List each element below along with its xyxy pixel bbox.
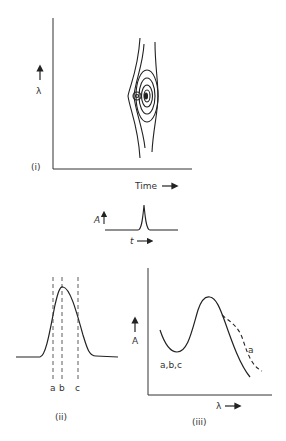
inset-peak-curve — [105, 205, 178, 230]
panel-i-y-label: λ — [36, 86, 42, 96]
panel-i-label: (i) — [31, 162, 41, 172]
marker-a: a — [50, 383, 56, 393]
diagram-canvas: λ (i) Time A t — [0, 0, 286, 441]
peak-curve — [16, 287, 118, 357]
curve-label-abc: a,b,c — [160, 360, 182, 370]
contour-lines — [128, 38, 158, 158]
marker-b: b — [59, 383, 65, 393]
panel-iii-x-label: λ — [216, 401, 222, 411]
panel-iii: A λ a,b,c a (iii) — [132, 268, 272, 427]
marker-c: c — [75, 383, 80, 393]
panel-ii-label: (ii) — [55, 412, 67, 422]
panel-iii-y-label: A — [132, 336, 139, 346]
panel-iii-label: (iii) — [192, 417, 207, 427]
panel-inset: A t — [93, 205, 178, 246]
inset-x-label: t — [130, 236, 134, 246]
panel-i: λ (i) Time — [31, 18, 192, 191]
inset-y-label: A — [93, 215, 100, 225]
curve-label-a: a — [248, 345, 254, 355]
panel-i-x-label: Time — [134, 181, 157, 191]
time-markers — [53, 277, 78, 380]
panel-ii: a b c (ii) — [16, 277, 118, 422]
spectrum-a-dashed — [222, 315, 262, 371]
